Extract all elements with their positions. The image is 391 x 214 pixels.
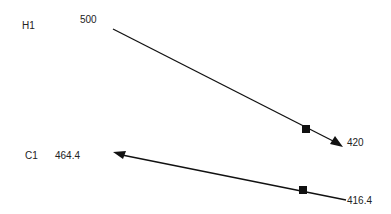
stream-label-h1: H1 xyxy=(22,20,35,32)
stream-label-c1: C1 xyxy=(25,150,38,162)
stream-h1-line xyxy=(113,29,343,147)
exchanger-marker-icon xyxy=(302,125,310,133)
c1-supply-temp: 416.4 xyxy=(347,195,372,207)
stream-lines xyxy=(0,0,391,214)
h1-target-temp: 420 xyxy=(347,137,364,149)
arrowhead-icon xyxy=(113,151,126,159)
c1-target-temp: 464.4 xyxy=(55,150,80,162)
stream-c1-line xyxy=(113,151,346,200)
exchanger-marker-icon xyxy=(299,186,307,194)
h1-supply-temp: 500 xyxy=(80,14,97,26)
arrowhead-icon xyxy=(330,136,343,147)
